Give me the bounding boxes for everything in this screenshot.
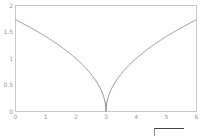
x-tick-label: 0 [14, 113, 18, 120]
y-tick-label: 1 [9, 55, 13, 62]
colorbar-stub [154, 128, 184, 136]
plot-frame [16, 6, 197, 112]
y-tick-label: 1.5 [3, 28, 13, 35]
x-tick-label: 4 [134, 113, 138, 120]
x-tick-label: 1 [44, 113, 48, 120]
x-tick-label: 3 [104, 113, 108, 120]
y-axis-ticks: 00.511.52 [3, 2, 13, 115]
line-chart: 00.511.52 0123456 [0, 0, 201, 137]
x-tick-label: 2 [74, 113, 78, 120]
data-curve [16, 20, 197, 112]
x-tick-label: 6 [195, 113, 199, 120]
y-tick-label: 2 [9, 2, 13, 9]
x-axis-ticks: 0123456 [14, 113, 199, 120]
x-tick-label: 5 [164, 113, 168, 120]
y-tick-label: 0 [9, 108, 13, 115]
y-tick-label: 0.5 [3, 81, 13, 88]
